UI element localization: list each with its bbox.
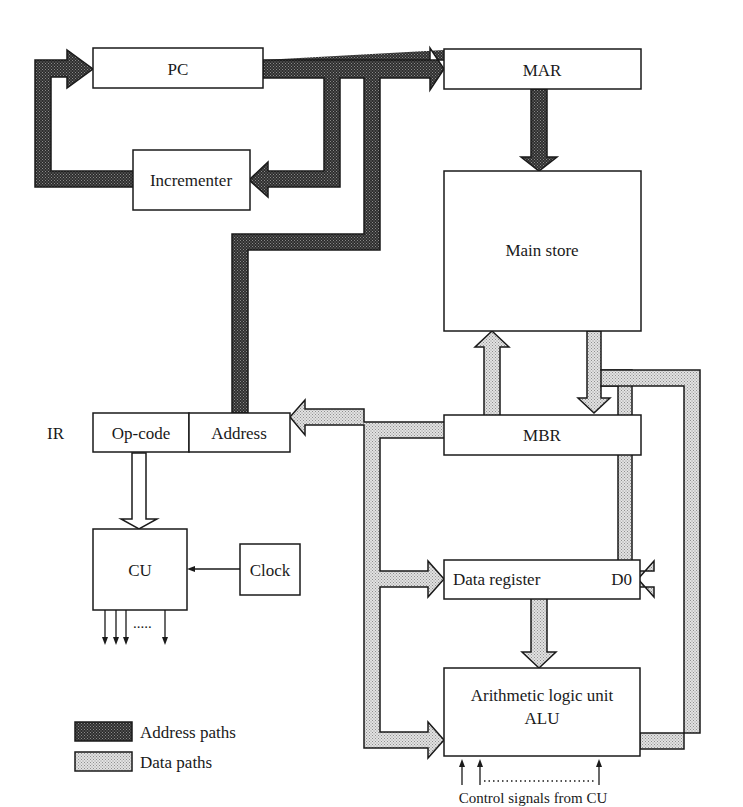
mbr-label: MBR bbox=[523, 426, 561, 445]
data-register-d0: Data register D0 bbox=[444, 560, 640, 599]
alu-control-inputs: Control signals from CU bbox=[459, 759, 608, 806]
incrementer-label: Incrementer bbox=[150, 171, 232, 190]
ir-opcode-label: Op-code bbox=[112, 424, 171, 443]
mbr-register: MBR bbox=[444, 415, 641, 455]
control-signals-label: Control signals from CU bbox=[459, 790, 608, 806]
legend-item-data: Data paths bbox=[75, 752, 212, 772]
ir-address-label: Address bbox=[211, 424, 267, 443]
alu-block: Arithmetic logic unit ALU bbox=[444, 668, 640, 756]
main-store-label: Main store bbox=[505, 241, 578, 260]
legend-address-label: Address paths bbox=[140, 723, 236, 742]
pc-label: PC bbox=[168, 60, 189, 79]
data-register-label: Data register bbox=[453, 570, 541, 589]
legend-item-address: Address paths bbox=[75, 722, 236, 742]
mar-register: MAR bbox=[444, 49, 641, 89]
data-register-id: D0 bbox=[611, 570, 632, 589]
cpu-architecture-diagram: PC MAR Incrementer Main store IR Op-code… bbox=[0, 0, 743, 807]
data-path-swatch bbox=[75, 752, 132, 771]
alu-label-line2: ALU bbox=[525, 709, 560, 728]
ir-label: IR bbox=[47, 424, 65, 443]
clock-label: Clock bbox=[250, 561, 291, 580]
address-path-pc-to-mar bbox=[232, 48, 470, 413]
cu-control-outputs: ..... bbox=[102, 610, 168, 645]
cu-label: CU bbox=[128, 561, 152, 580]
incrementer-block: Incrementer bbox=[133, 150, 250, 210]
cu-outputs-dots: ..... bbox=[133, 615, 152, 631]
main-store-block: Main store bbox=[444, 171, 641, 331]
address-path-mar-to-main-store bbox=[521, 89, 557, 171]
ir-register: IR Op-code Address bbox=[47, 413, 290, 452]
clock-block: Clock bbox=[240, 544, 300, 595]
pc-register: PC bbox=[93, 48, 263, 88]
opcode-to-cu-arrow bbox=[121, 453, 157, 529]
clock-to-cu-arrow bbox=[187, 566, 240, 572]
alu-label-line1: Arithmetic logic unit bbox=[471, 686, 614, 705]
address-path-swatch bbox=[75, 722, 132, 741]
mar-label: MAR bbox=[523, 61, 562, 80]
legend-data-label: Data paths bbox=[140, 753, 212, 772]
cu-block: CU bbox=[93, 529, 187, 610]
legend: Address paths Data paths bbox=[75, 722, 236, 772]
data-path-dr-to-alu bbox=[522, 598, 556, 668]
